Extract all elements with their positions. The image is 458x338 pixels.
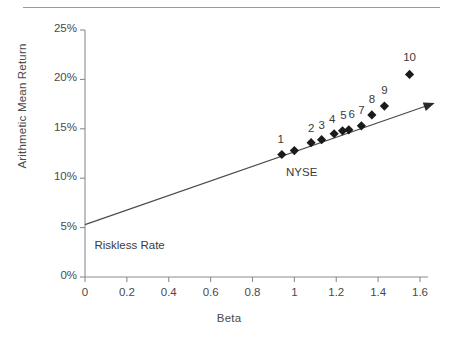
sml-line-shaft — [85, 106, 426, 225]
security-market-line — [85, 102, 435, 224]
x-axis-tick-label: 1.4 — [358, 286, 398, 298]
x-axis-title: Beta — [0, 312, 458, 324]
x-axis-tick-label: 0.8 — [233, 286, 273, 298]
data-point-marker — [405, 70, 414, 79]
data-point-marker — [317, 135, 326, 144]
data-point-label: 1 — [270, 133, 292, 145]
x-axis-tick-label: 0 — [65, 286, 105, 298]
y-axis-title: Arithmetic Mean Return — [16, 11, 28, 201]
x-axis-tick-label: 0.2 — [107, 286, 147, 298]
x-axis-tick-label: 0.4 — [149, 286, 189, 298]
data-point-label: 10 — [399, 51, 421, 63]
data-point-marker — [344, 125, 353, 134]
data-point-marker — [307, 138, 316, 147]
x-axis-tick-label: 1.2 — [316, 286, 356, 298]
y-axis-tick-label: 20% — [29, 71, 77, 83]
data-point-marker — [290, 146, 299, 155]
riskless-rate-annotation: Riskless Rate — [94, 239, 164, 251]
y-axis-tick-label: 15% — [29, 121, 77, 133]
data-point-label: 7 — [350, 104, 372, 116]
y-axis-tick-label: 25% — [29, 22, 77, 34]
x-axis-tick-label: 1 — [274, 286, 314, 298]
x-axis-tick-label: 0.6 — [191, 286, 231, 298]
data-point-marker — [357, 121, 366, 130]
sml-arrowhead — [423, 102, 435, 111]
y-axis-tick-label: 0% — [29, 269, 77, 281]
y-axis-tick-label: 5% — [29, 220, 77, 232]
nyse-annotation: NYSE — [286, 166, 317, 178]
data-point-label: 9 — [373, 84, 395, 96]
figure-container: Arithmetic Mean Return Beta 0%5%10%15%20… — [0, 0, 458, 338]
y-axis-tick-label: 10% — [29, 170, 77, 182]
x-axis-tick-label: 1.6 — [400, 286, 440, 298]
